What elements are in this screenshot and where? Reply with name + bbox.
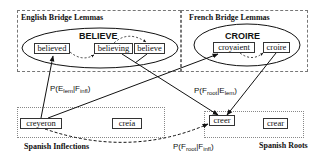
word-croyaient: croyaient: [213, 42, 255, 53]
word-creer: creer: [209, 115, 235, 126]
believed-to-believing-link: [70, 52, 94, 58]
prob-e-lem-given-f-infl: P(Elem|Finfl): [50, 85, 90, 94]
prob-f-root-given-e-lem: P(Froot|Elem): [194, 87, 237, 96]
believe-lemma-title: BELIEVE: [79, 31, 118, 41]
croyaient-to-croire-link: [240, 53, 263, 58]
word-croire: croire: [263, 42, 290, 53]
connections-layer: [0, 0, 325, 161]
word-creyeron: creyeron: [20, 118, 62, 129]
believing-to-believe-link: [114, 36, 146, 43]
word-creia: creía: [112, 118, 142, 129]
word-believe: believe: [134, 43, 165, 54]
prob-f-root-given-f-infl: P(Froot|Finfl): [173, 143, 214, 152]
croire-lemma-title: CROIRE: [225, 31, 260, 41]
word-believed: believed: [34, 43, 70, 54]
word-crear: crear: [263, 118, 288, 129]
believe-to-creer-line: [135, 54, 147, 63]
diagram-canvas: English Bridge Lemmas French Bridge Lemm…: [0, 0, 325, 161]
croire-to-creer-arrow: [227, 53, 276, 115]
word-believing: believing: [94, 43, 133, 54]
